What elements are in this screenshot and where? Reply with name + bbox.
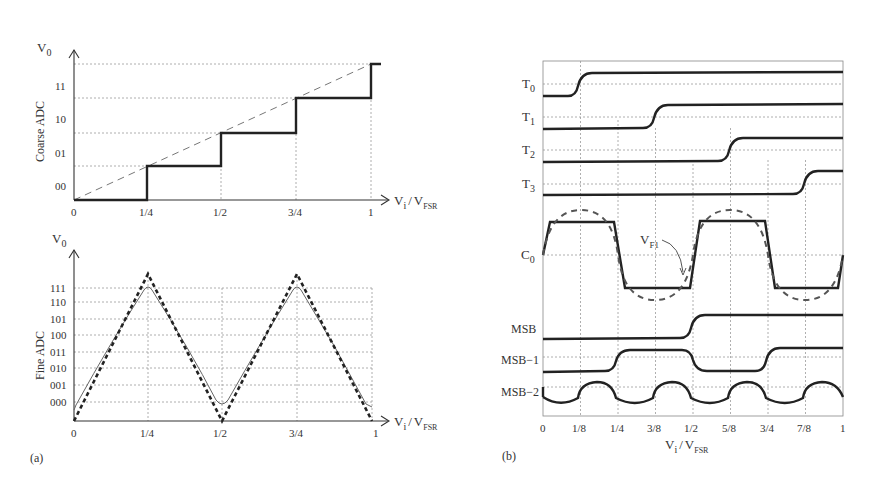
fine-x-tick-1: 1 (373, 427, 379, 439)
coarse-y-axis-label: V0 (37, 40, 51, 58)
fine-x-tick-3-4: 3/4 (289, 427, 304, 439)
coarse-adc-plot: V0 Coarse ADC 00 01 10 11 0 1/4 1/2 3/4 … (33, 40, 438, 218)
fine-grid (74, 276, 372, 421)
figure-canvas: V0 Coarse ADC 00 01 10 11 0 1/4 1/2 3/4 … (0, 0, 871, 479)
waveform-t3 (543, 171, 843, 195)
coarse-x-tick-1-2: 1/2 (213, 206, 227, 218)
wave-x-tick-3-4: 3/4 (760, 422, 775, 434)
panel-b-label: (b) (502, 449, 516, 463)
row-label-c0: C0 (521, 247, 535, 265)
fine-x-axis-label: Vi/VFSR (394, 414, 438, 432)
coarse-x-tick-1-4: 1/4 (139, 206, 154, 218)
fine-y-tick-111: 111 (50, 282, 66, 294)
wave-x-tick-3-8: 3/8 (647, 422, 662, 434)
fine-y-tick-101: 101 (50, 313, 67, 325)
fine-adc-plot: V0 Fine ADC 111 110 101 100 011 010 001 … (30, 231, 438, 465)
row-label-msb: MSB (511, 322, 536, 336)
vf1-annotation-label: VF1 (640, 232, 659, 250)
wave-x-axis-label: Vi/VFSR (665, 437, 709, 455)
coarse-y-tick-10: 10 (55, 113, 67, 125)
fine-ideal-curve (74, 274, 372, 421)
coarse-y-title: Coarse ADC (33, 101, 47, 162)
coarse-x-tick-1: 1 (368, 206, 374, 218)
coarse-staircase (74, 64, 381, 200)
fine-x-tick-1-2: 1/2 (213, 427, 227, 439)
row-label-t0: T0 (522, 76, 535, 94)
fine-y-title: Fine ADC (33, 331, 47, 380)
row-label-t2: T2 (522, 142, 535, 160)
fine-y-tick-000: 000 (50, 396, 67, 408)
waveform-t1 (543, 104, 843, 129)
coarse-y-tick-00: 00 (55, 180, 67, 192)
fine-y-tick-001: 001 (50, 379, 67, 391)
fine-y-tick-110: 110 (50, 296, 67, 308)
coarse-x-tick-3-4: 3/4 (288, 206, 303, 218)
wave-x-tick-1-4: 1/4 (610, 422, 625, 434)
waveform-plot: VF1 T0 T1 T2 T3 C0 MSB MSB−1 MSB−2 0 1/8… (501, 61, 846, 463)
fine-y-axis-label: V0 (52, 231, 66, 249)
wave-x-tick-7-8: 7/8 (797, 422, 812, 434)
fine-y-tick-011: 011 (50, 346, 66, 358)
fine-y-tick-010: 010 (50, 362, 67, 374)
panel-a-label: (a) (30, 451, 43, 465)
fine-x-tick-0: 0 (71, 427, 77, 439)
wave-x-tick-0: 0 (540, 422, 546, 434)
wave-x-tick-1-2: 1/2 (684, 422, 698, 434)
coarse-x-axis-label: Vi/VFSR (394, 193, 438, 211)
wave-x-tick-5-8: 5/8 (722, 422, 737, 434)
wave-x-tick-1-8: 1/8 (572, 422, 587, 434)
coarse-x-tick-0: 0 (71, 206, 77, 218)
fine-actual-curve (74, 287, 372, 410)
row-label-t3: T3 (522, 176, 535, 194)
coarse-y-tick-01: 01 (55, 147, 66, 159)
waveform-msb (543, 315, 843, 339)
wave-x-tick-1: 1 (840, 422, 846, 434)
coarse-y-tick-11: 11 (55, 80, 66, 92)
fine-y-tick-100: 100 (50, 329, 67, 341)
row-label-t1: T1 (522, 109, 535, 127)
fine-x-tick-1-4: 1/4 (140, 427, 155, 439)
row-label-msb-2: MSB−2 (501, 385, 539, 399)
row-label-msb-1: MSB−1 (501, 353, 539, 367)
vf1-annotation-arrow (662, 240, 683, 272)
